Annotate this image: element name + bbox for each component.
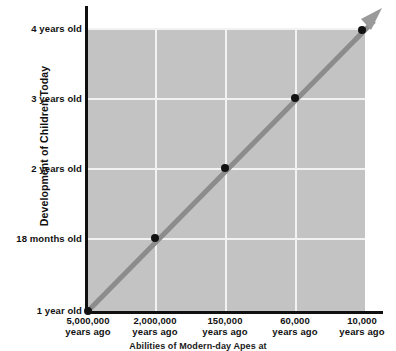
x-tick-line-2: years ago bbox=[314, 327, 396, 338]
x-axis-line bbox=[85, 311, 383, 314]
gridline-vertical bbox=[295, 28, 297, 312]
data-point bbox=[221, 164, 229, 172]
chart-figure: Development of Children Today 4 years ol… bbox=[0, 0, 396, 351]
y-tick-label-3-years: 3 years old bbox=[31, 93, 82, 104]
data-point bbox=[291, 94, 299, 102]
y-axis-line bbox=[85, 6, 88, 314]
gridline-vertical bbox=[155, 28, 157, 312]
y-tick-label-4-years: 4 years old bbox=[31, 23, 82, 34]
x-axis-caption: Abilities of Modern-day Apes at bbox=[0, 341, 396, 351]
y-tick-label-18-months: 18 months old bbox=[16, 233, 82, 244]
x-tick-line-1: 10,000 bbox=[314, 316, 396, 327]
y-tick-label-2-years: 2 years old bbox=[31, 163, 82, 174]
data-point bbox=[358, 26, 366, 34]
data-point bbox=[84, 307, 92, 315]
y-tick-label-1-year: 1 year old bbox=[37, 305, 82, 316]
x-tick-label-10000: 10,000 years ago bbox=[314, 316, 396, 337]
data-point bbox=[151, 234, 159, 242]
